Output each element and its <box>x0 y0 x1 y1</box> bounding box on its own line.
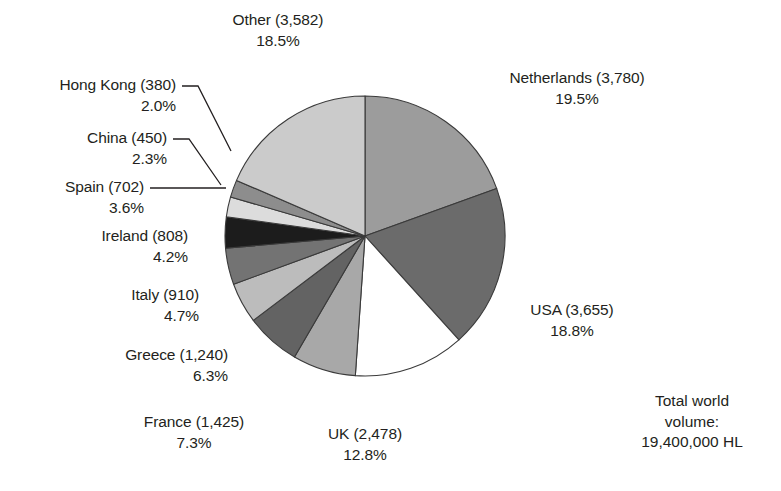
slice-label-usa-name: USA (3,655) <box>498 300 646 321</box>
slice-label-greece: Greece (1,240) 6.3% <box>0 345 228 386</box>
slice-label-italy: Italy (910) 4.7% <box>0 285 199 326</box>
slice-label-france-percent: 7.3% <box>98 433 290 454</box>
leader-line-hong-kong <box>182 86 231 151</box>
pie-chart-page: Other (3,582) 18.5% Hong Kong (380) 2.0%… <box>0 0 781 491</box>
slice-label-china-percent: 2.3% <box>0 149 167 170</box>
slice-label-spain: Spain (702) 3.6% <box>0 177 144 218</box>
slice-label-france: France (1,425) 7.3% <box>98 412 290 453</box>
slice-label-ireland: Ireland (808) 4.2% <box>0 226 188 267</box>
slice-label-netherlands-percent: 19.5% <box>477 89 677 110</box>
slice-label-usa-percent: 18.8% <box>498 321 646 342</box>
slice-label-uk: UK (2,478) 12.8% <box>287 424 443 465</box>
pie-slices-group <box>225 96 505 376</box>
slice-label-uk-percent: 12.8% <box>287 445 443 466</box>
slice-label-hong-kong-name: Hong Kong (380) <box>0 75 176 96</box>
slice-label-ireland-name: Ireland (808) <box>0 226 188 247</box>
slice-label-ireland-percent: 4.2% <box>0 247 188 268</box>
slice-label-other-percent: 18.5% <box>188 31 368 52</box>
slice-label-usa: USA (3,655) 18.8% <box>498 300 646 341</box>
slice-label-uk-name: UK (2,478) <box>287 424 443 445</box>
total-world-volume-note: Total world volume: 19,400,000 HL <box>617 391 767 453</box>
slice-label-france-name: France (1,425) <box>98 412 290 433</box>
slice-label-netherlands-name: Netherlands (3,780) <box>477 68 677 89</box>
slice-label-greece-name: Greece (1,240) <box>0 345 228 366</box>
slice-label-hong-kong: Hong Kong (380) 2.0% <box>0 75 176 116</box>
slice-label-italy-percent: 4.7% <box>0 306 199 327</box>
total-note-line1: Total world <box>617 391 767 412</box>
slice-label-netherlands: Netherlands (3,780) 19.5% <box>477 68 677 109</box>
total-note-line2: volume: <box>617 412 767 433</box>
leader-line-china <box>173 139 221 185</box>
slice-label-greece-percent: 6.3% <box>0 366 228 387</box>
slice-label-china: China (450) 2.3% <box>0 128 167 169</box>
slice-label-other-name: Other (3,582) <box>188 10 368 31</box>
slice-label-italy-name: Italy (910) <box>0 285 199 306</box>
slice-label-hong-kong-percent: 2.0% <box>0 96 176 117</box>
total-note-line3: 19,400,000 HL <box>617 432 767 453</box>
slice-label-spain-percent: 3.6% <box>0 198 144 219</box>
slice-label-spain-name: Spain (702) <box>0 177 144 198</box>
slice-label-other: Other (3,582) 18.5% <box>188 10 368 51</box>
slice-label-china-name: China (450) <box>0 128 167 149</box>
